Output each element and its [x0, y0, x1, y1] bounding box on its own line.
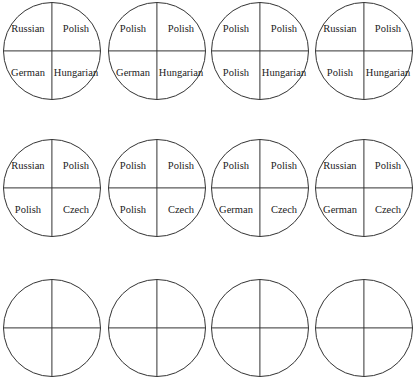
horizontal-divider [212, 187, 308, 188]
quadrant-bottom-left-label [109, 338, 157, 362]
horizontal-divider [212, 50, 308, 51]
quadrant-circle-r2-c4: Russian Polish German Czech [315, 139, 413, 237]
quadrant-bottom-right-label [260, 338, 308, 362]
quadrant-bottom-right-label: Hungarian [157, 61, 205, 85]
quadrant-top-right-label: Polish [157, 154, 205, 178]
quadrant-circle-r1-c3: Polish Polish Polish Hungarian [211, 2, 309, 100]
quadrant-bottom-right-label: Hungarian [52, 61, 100, 85]
quadrant-bottom-left-label: German [316, 198, 364, 222]
quadrant-circle-r1-c2: Polish Polish German Hungarian [108, 2, 206, 100]
quadrant-top-left-label: Polish [212, 17, 260, 41]
quadrant-bottom-right-label [52, 338, 100, 362]
quadrant-top-right-label: Polish [157, 17, 205, 41]
quadrant-circle-r3-c3 [211, 279, 309, 377]
quadrant-top-left-label: Polish [109, 154, 157, 178]
quadrant-bottom-right-label: Czech [364, 198, 412, 222]
quadrant-top-right-label: Polish [364, 17, 412, 41]
quadrant-bottom-right-label [157, 338, 205, 362]
horizontal-divider [109, 187, 205, 188]
quadrant-circle-r2-c1: Russian Polish Polish Czech [3, 139, 101, 237]
horizontal-divider [316, 187, 412, 188]
quadrant-circle-r2-c2: Polish Polish Polish Czech [108, 139, 206, 237]
quadrant-bottom-right-label: Czech [260, 198, 308, 222]
quadrant-top-right-label [260, 294, 308, 318]
quadrant-top-left-label: Polish [212, 154, 260, 178]
quadrant-bottom-left-label: Polish [4, 198, 52, 222]
quadrant-bottom-right-label: Hungarian [364, 61, 412, 85]
horizontal-divider [109, 50, 205, 51]
horizontal-divider [212, 327, 308, 328]
quadrant-top-right-label [52, 294, 100, 318]
quadrant-bottom-left-label: Polish [212, 61, 260, 85]
quadrant-top-right-label [364, 294, 412, 318]
quadrant-top-right-label: Polish [260, 17, 308, 41]
quadrant-bottom-left-label: Polish [316, 61, 364, 85]
quadrant-bottom-left-label: Polish [109, 198, 157, 222]
horizontal-divider [4, 327, 100, 328]
horizontal-divider [109, 327, 205, 328]
quadrant-top-right-label: Polish [52, 154, 100, 178]
quadrant-circle-r3-c1 [3, 279, 101, 377]
quadrant-top-right-label: Polish [364, 154, 412, 178]
quadrant-bottom-left-label: German [109, 61, 157, 85]
quadrant-bottom-left-label [212, 338, 260, 362]
quadrant-circle-r3-c4 [315, 279, 413, 377]
quadrant-top-left-label [316, 294, 364, 318]
horizontal-divider [316, 50, 412, 51]
quadrant-top-left-label [4, 294, 52, 318]
quadrant-top-left-label: Polish [109, 17, 157, 41]
quadrant-circle-r1-c4: Russian Polish Polish Hungarian [315, 2, 413, 100]
quadrant-top-left-label: Russian [316, 17, 364, 41]
horizontal-divider [316, 327, 412, 328]
quadrant-bottom-left-label: German [212, 198, 260, 222]
quadrant-bottom-right-label: Czech [52, 198, 100, 222]
quadrant-top-left-label [212, 294, 260, 318]
quadrant-top-left-label: Russian [4, 17, 52, 41]
quadrant-bottom-left-label: German [4, 61, 52, 85]
quadrant-bottom-right-label: Hungarian [260, 61, 308, 85]
horizontal-divider [4, 187, 100, 188]
quadrant-top-left-label: Russian [4, 154, 52, 178]
quadrant-bottom-left-label [316, 338, 364, 362]
quadrant-top-left-label [109, 294, 157, 318]
quadrant-bottom-right-label [364, 338, 412, 362]
quadrant-circle-r2-c3: Polish Polish German Czech [211, 139, 309, 237]
quadrant-bottom-right-label: Czech [157, 198, 205, 222]
quadrant-bottom-left-label [4, 338, 52, 362]
quadrant-circle-r1-c1: Russian Polish German Hungarian [3, 2, 101, 100]
horizontal-divider [4, 50, 100, 51]
quadrant-top-right-label: Polish [52, 17, 100, 41]
quadrant-circle-r3-c2 [108, 279, 206, 377]
quadrant-top-right-label: Polish [260, 154, 308, 178]
quadrant-top-left-label: Russian [316, 154, 364, 178]
quadrant-top-right-label [157, 294, 205, 318]
